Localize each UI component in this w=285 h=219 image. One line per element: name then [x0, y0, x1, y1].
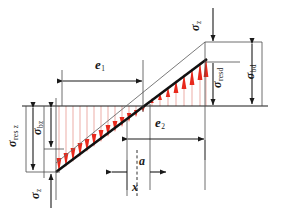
sigma-glyph: σ: [28, 193, 42, 199]
sigma-z-top-subscript: z: [194, 20, 203, 24]
a-glyph: a: [139, 154, 145, 168]
sigma-glyph: σ: [30, 129, 44, 135]
sigma-glyph: σ: [188, 25, 202, 31]
label-sigma-bz: σbz: [31, 121, 43, 135]
sigma-bd-subscript: bd: [249, 64, 258, 72]
e1-glyph: e: [95, 57, 101, 72]
sigma-glyph: σ: [5, 140, 19, 146]
sigma-res-z-subscript: res z: [11, 125, 20, 140]
sigma-glyph: σ: [210, 82, 224, 88]
label-sigma-z-top: σz: [189, 21, 201, 31]
x-glyph: x: [132, 180, 138, 194]
label-sigma-resd: σresd: [211, 68, 223, 88]
label-x: x: [132, 181, 138, 193]
e1-subscript: 1: [101, 64, 105, 73]
sigma-glyph: σ: [243, 73, 257, 79]
stress-distribution-figure: σz σresd σbd σres z σbz σz e1 e2 a x: [0, 0, 285, 219]
label-sigma-res-z: σres z: [6, 125, 18, 147]
label-sigma-bd: σbd: [244, 65, 256, 80]
label-a: a: [139, 155, 145, 167]
label-sigma-z-bottom: σz: [29, 189, 41, 199]
reference-lines: [26, 42, 262, 200]
stress-profile-line: [56, 59, 207, 172]
label-e2: e2: [155, 116, 165, 129]
label-e1: e1: [95, 58, 105, 71]
sigma-bz-subscript: bz: [36, 120, 45, 128]
sigma-z-bottom-subscript: z: [34, 188, 43, 192]
upper-envelope-line: [56, 42, 205, 163]
e2-subscript: 2: [161, 122, 165, 131]
sigma-resd-subscript: resd: [216, 67, 225, 81]
e2-glyph: e: [155, 115, 161, 130]
figure-canvas: [0, 0, 285, 219]
